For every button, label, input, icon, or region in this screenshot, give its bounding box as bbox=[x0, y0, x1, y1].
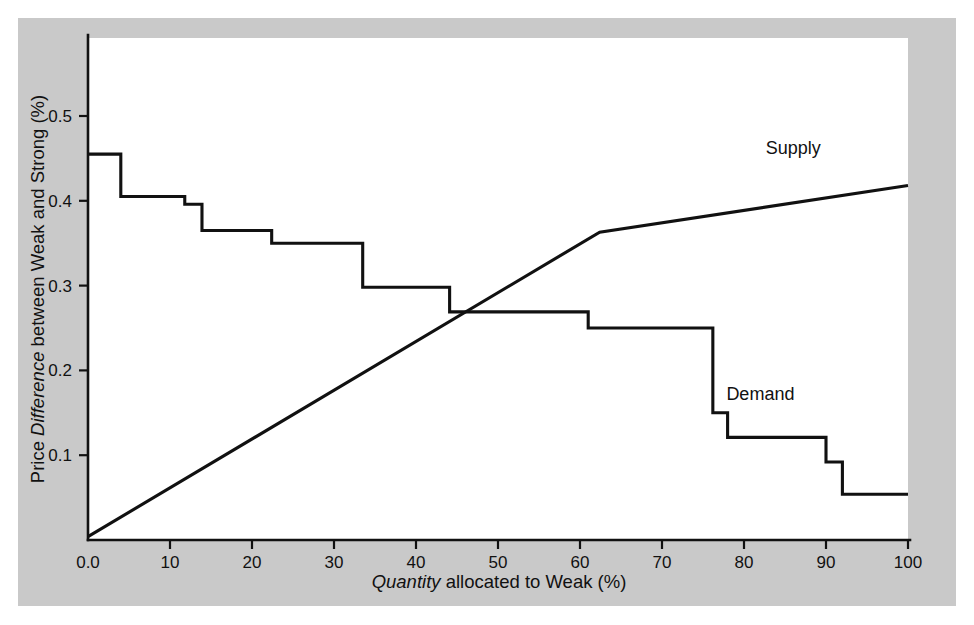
supply-curve bbox=[88, 186, 908, 537]
demand-series-label: Demand bbox=[726, 384, 794, 404]
y-axis-tick-labels: 0.10.20.30.40.5 bbox=[48, 107, 72, 465]
x-tick-label: 70 bbox=[653, 553, 672, 572]
x-tick-label: 60 bbox=[571, 553, 590, 572]
x-tick-label: 10 bbox=[161, 553, 180, 572]
y-tick-label: 0.4 bbox=[48, 192, 72, 211]
x-tick-label: 90 bbox=[817, 553, 836, 572]
x-axis-title: Quantity allocated to Weak (%) bbox=[372, 571, 627, 592]
x-tick-label: 0.0 bbox=[76, 553, 100, 572]
y-axis-title: Price Difference between Weak and Strong… bbox=[27, 95, 48, 483]
x-axis-ticks bbox=[170, 540, 908, 549]
y-axis-ticks bbox=[79, 116, 88, 455]
x-tick-label: 40 bbox=[407, 553, 426, 572]
x-tick-label: 80 bbox=[735, 553, 754, 572]
x-axis-tick-labels: 0.0102030405060708090100 bbox=[76, 553, 922, 572]
y-tick-label: 0.2 bbox=[48, 361, 72, 380]
y-tick-label: 0.1 bbox=[48, 446, 72, 465]
figure-container: 0.10.20.30.40.5 0.0102030405060708090100… bbox=[0, 0, 974, 625]
y-tick-label: 0.3 bbox=[48, 277, 72, 296]
x-tick-label: 100 bbox=[894, 553, 922, 572]
x-tick-label: 50 bbox=[489, 553, 508, 572]
x-tick-label: 20 bbox=[243, 553, 262, 572]
chart-canvas: 0.10.20.30.40.5 0.0102030405060708090100… bbox=[0, 0, 974, 625]
y-tick-label: 0.5 bbox=[48, 107, 72, 126]
supply-series-label: Supply bbox=[766, 138, 821, 158]
x-tick-label: 30 bbox=[325, 553, 344, 572]
